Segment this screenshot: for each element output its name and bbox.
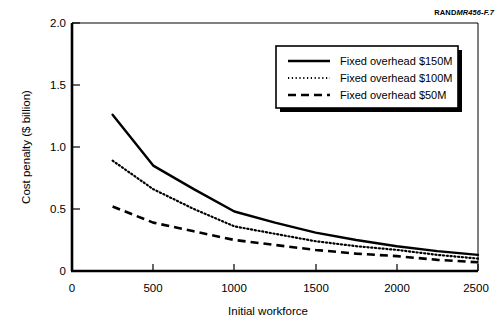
chart-legend: Fixed overhead $150M Fixed overhead $100…: [276, 46, 462, 112]
y-axis-title: Cost penalty ($ billion): [20, 90, 32, 204]
figure-container: RANDMR456-F.7 2.0 1.5 1.0: [0, 0, 504, 326]
x-tick-label-0: 0: [69, 282, 75, 294]
y-tick-label-0: 0: [60, 265, 66, 277]
legend-label-0: Fixed overhead $150M: [340, 55, 453, 67]
y-tick-label-2.0: 2.0: [50, 17, 66, 29]
x-axis-tick-labels: 0 500 1000 1500 2000 2500: [69, 282, 489, 294]
y-axis-tick-labels: 2.0 1.5 1.0 0.5 0: [50, 17, 66, 277]
legend-label-1: Fixed overhead $100M: [340, 72, 453, 84]
x-tick-label-1000: 1000: [221, 282, 247, 294]
x-tick-label-500: 500: [143, 282, 162, 294]
y-tick-label-1.0: 1.0: [50, 141, 66, 153]
series-group: [113, 115, 478, 263]
series-line-fixed-overhead-150m: [113, 115, 478, 255]
line-chart: 2.0 1.5 1.0 0.5 0 0 500 1000 1500 2000 2…: [0, 0, 504, 326]
x-tick-label-2000: 2000: [384, 282, 410, 294]
x-tick-label-1500: 1500: [303, 282, 329, 294]
x-tick-label-2500: 2500: [463, 282, 489, 294]
y-tick-label-0.5: 0.5: [50, 203, 66, 215]
legend-label-2: Fixed overhead $50M: [340, 89, 446, 101]
x-axis-title: Initial workforce: [228, 305, 308, 317]
series-line-fixed-overhead-100m: [113, 161, 478, 259]
y-tick-label-1.5: 1.5: [50, 79, 66, 91]
